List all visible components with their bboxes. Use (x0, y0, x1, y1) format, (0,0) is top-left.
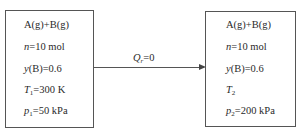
n-value: =10 mol (231, 41, 266, 52)
initial-system-text: A(g)+B(g) (24, 19, 69, 30)
final-system-text: A(g)+B(g) (226, 19, 271, 30)
initial-yB: y(B)=0.6 (24, 63, 62, 75)
yB-value: (B)=0.6 (231, 63, 264, 74)
final-yB: y(B)=0.6 (226, 63, 264, 75)
Q-symbol: Q (133, 52, 141, 63)
final-system: A(g)+B(g) (226, 19, 271, 31)
p-value: =50 kPa (33, 105, 68, 116)
T-subscript: 2 (232, 89, 236, 97)
initial-n: n=10 mol (24, 41, 65, 53)
p-value: =200 kPa (235, 105, 275, 116)
initial-T: T1=300 K (24, 84, 65, 96)
Q-value: =0 (143, 52, 154, 63)
final-T: T2 (226, 84, 235, 96)
initial-p: p1=50 kPa (24, 105, 68, 117)
process-label: Qr=0 (133, 52, 155, 63)
n-value: =10 mol (29, 41, 64, 52)
process-arrow-line (94, 67, 200, 68)
yB-value: (B)=0.6 (29, 63, 62, 74)
final-n: n=10 mol (226, 41, 267, 53)
T-value: =300 K (33, 84, 65, 95)
final-p: p2=200 kPa (226, 105, 275, 117)
initial-system: A(g)+B(g) (24, 19, 69, 31)
